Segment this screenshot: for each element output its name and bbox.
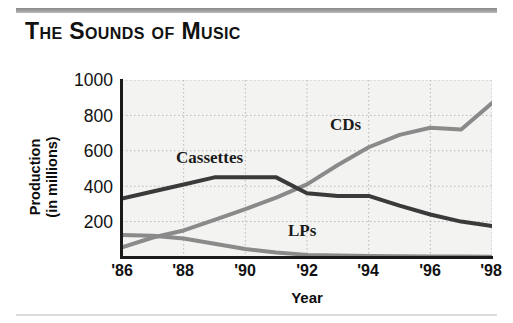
y-tick-label: 800 — [57, 106, 113, 127]
header-divider — [16, 8, 497, 13]
y-axis-title: Production (in millions) — [27, 82, 61, 272]
x-tick-label: '88 — [160, 262, 206, 280]
y-tick-label: 200 — [57, 212, 113, 233]
x-axis-title: Year — [122, 289, 492, 306]
x-tick-label: '90 — [222, 262, 268, 280]
x-axis-line — [120, 256, 493, 259]
x-tick-label: '86 — [99, 262, 145, 280]
series-label-cassettes: Cassettes — [176, 148, 243, 168]
y-tick-label: 1000 — [57, 70, 113, 91]
x-tick-label: '92 — [284, 262, 330, 280]
page-title: The Sounds of Music — [25, 18, 241, 45]
footer-divider — [16, 314, 497, 316]
series-label-cds: CDs — [330, 115, 361, 135]
chart-figure: The Sounds of Music Production (in milli… — [0, 0, 513, 323]
x-tick-label: '96 — [407, 262, 453, 280]
y-axis-line — [120, 79, 123, 259]
series-label-lps: LPs — [288, 221, 316, 241]
y-axis-title-line1: Production — [27, 82, 44, 272]
y-tick-label: 600 — [57, 141, 113, 162]
x-tick-label: '98 — [468, 262, 513, 280]
y-tick-label: 400 — [57, 177, 113, 198]
x-tick-label: '94 — [345, 262, 391, 280]
